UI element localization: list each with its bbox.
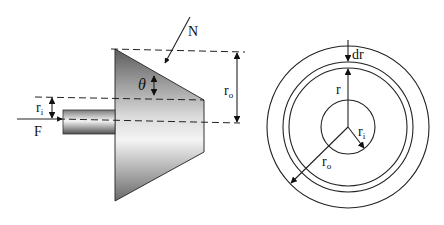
cone-body (115, 49, 204, 201)
outer-radius-top-line (111, 49, 245, 52)
normal-force-arrow (165, 17, 190, 63)
normal-force-label: N (188, 24, 198, 39)
inner-radius-label: ri (36, 100, 44, 117)
cone-clutch-view: ro ri F N θ (17, 17, 245, 201)
axial-force-label: F (34, 124, 42, 139)
inner-radius-label-right: ri (358, 124, 366, 141)
dr-label: dr (352, 47, 364, 62)
outer-radius-label: ro (224, 83, 234, 100)
radius-label: r (336, 82, 341, 97)
clutch-diagram: ro ri F N θ dr r ri ro (0, 0, 444, 225)
outer-radius-label-right: ro (322, 154, 332, 171)
shaft (63, 110, 115, 134)
annular-surface-view: dr r ri ro (267, 40, 429, 208)
outer-radius-arrow (291, 127, 348, 183)
angle-label: θ (138, 76, 146, 93)
